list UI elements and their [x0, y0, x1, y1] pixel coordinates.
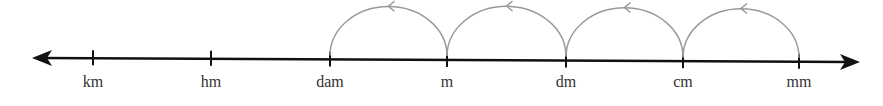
unit-label-mm: mm	[787, 73, 812, 90]
unit-label-m: m	[441, 73, 454, 90]
conversion-arc-m-to-dam	[330, 7, 447, 56]
unit-label-dm: dm	[556, 73, 577, 90]
unit-label-hm: hm	[201, 73, 222, 90]
conversion-arc-mm-to-cm	[683, 9, 799, 58]
unit-label-km: km	[83, 73, 104, 90]
unit-conversion-number-line: kmhmdammdmcmmm	[0, 0, 883, 106]
unit-label-dam: dam	[316, 73, 344, 90]
unit-label-cm: cm	[673, 73, 693, 90]
conversion-arc-cm-to-dm	[566, 8, 683, 57]
conversion-arc-dm-to-m	[447, 6, 566, 56]
axis-line	[40, 58, 850, 62]
